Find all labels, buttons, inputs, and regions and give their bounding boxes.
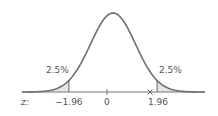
right-tail-label: 2.5% (159, 66, 182, 75)
left-tail-label: 2.5% (46, 66, 69, 75)
bell-curve (22, 13, 205, 92)
axis-name-label: z: (21, 98, 29, 107)
tick-label-pos: 1.96 (148, 98, 168, 107)
tick-label-zero: 0 (104, 98, 110, 107)
tick-label-neg: −1.96 (55, 98, 83, 107)
